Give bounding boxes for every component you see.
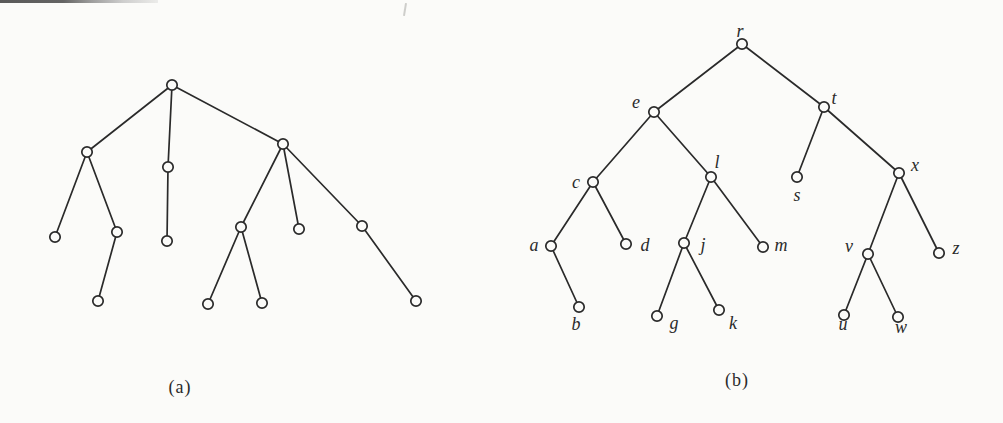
tree-edge-x-z [899, 173, 939, 253]
node-label-e: e [632, 92, 640, 112]
tree-node-e [649, 107, 659, 117]
figure-svg: retclsxadjmvzbgkuw [0, 0, 1003, 423]
caption-b: (b) [725, 370, 749, 391]
tree-node [93, 296, 103, 306]
tree-edge-n1-n3 [168, 85, 172, 167]
node-label-t: t [831, 88, 837, 108]
node-label-w: w [895, 317, 907, 337]
node-label-a: a [530, 235, 539, 255]
tree-node-l [706, 172, 716, 182]
tree-node [50, 232, 60, 242]
tree-node [357, 221, 367, 231]
node-label-u: u [839, 314, 848, 334]
node-label-g: g [670, 313, 679, 333]
tree-b: retclsxadjmvzbgkuw [530, 21, 960, 337]
tree-node-j [679, 238, 689, 248]
tree-node [112, 227, 122, 237]
tree-node [294, 224, 304, 234]
tree-node [163, 162, 173, 172]
node-label-v: v [845, 236, 853, 256]
node-label-c: c [572, 172, 580, 192]
tree-edge-t-x [824, 107, 899, 173]
caption-a: (a) [169, 377, 192, 398]
tree-edge-r-e [654, 44, 742, 112]
tree-edge-c-d [593, 182, 626, 244]
tree-node [278, 139, 288, 149]
node-label-k: k [729, 313, 738, 333]
node-label-z: z [951, 238, 959, 258]
tree-edge-n9-n11 [241, 227, 262, 303]
tree-node-v [863, 249, 873, 259]
tree-node-b [574, 302, 584, 312]
node-label-b: b [572, 314, 581, 334]
tree-node-m [758, 242, 768, 252]
tree-edge-n4-n12 [283, 144, 299, 229]
tree-node-g [652, 311, 662, 321]
tree-edge-l-m [711, 177, 763, 247]
tree-node [236, 222, 246, 232]
tree-node [162, 236, 172, 246]
tree-edge-r-t [742, 44, 824, 107]
tree-node-a [546, 241, 556, 251]
node-label-x: x [910, 155, 919, 175]
tree-edge-v-w [868, 254, 898, 317]
tree-node-d [621, 239, 631, 249]
tree-node-t [819, 102, 829, 112]
tree-edge-n1-n4 [172, 85, 283, 144]
tree-edge-n9-n10 [208, 227, 241, 304]
tree-node [167, 80, 177, 90]
tree-node [411, 296, 421, 306]
tree-edge-j-g [657, 243, 684, 316]
tree-edge-n13-n14 [362, 226, 416, 301]
node-label-l: l [714, 152, 719, 172]
tree-edge-n3-n8 [167, 167, 168, 241]
tree-edge-n1-n2 [87, 85, 172, 152]
tree-node-z [934, 248, 944, 258]
node-label-s: s [793, 185, 800, 205]
tree-edge-n4-n9 [241, 144, 283, 227]
tree-edge-n6-n7 [98, 232, 117, 301]
node-label-j: j [698, 235, 705, 255]
tree-edge-n4-n13 [283, 144, 362, 226]
tree-node [257, 298, 267, 308]
tree-edge-e-c [593, 112, 654, 182]
tree-a [50, 80, 421, 309]
tree-edge-l-j [684, 177, 711, 243]
node-label-r: r [736, 21, 744, 41]
tree-edge-a-b [551, 246, 579, 307]
tree-edge-n2-n6 [87, 152, 117, 232]
node-label-m: m [775, 235, 788, 255]
tree-edge-x-v [868, 173, 899, 254]
figure-page: retclsxadjmvzbgkuw (a) (b) [0, 0, 1003, 423]
tree-edge-e-l [654, 112, 711, 177]
scan-artifact-streak [0, 0, 158, 3]
tree-edge-v-u [844, 254, 868, 315]
tree-node-x [894, 168, 904, 178]
tree-node-c [588, 177, 598, 187]
tree-node-s [792, 172, 802, 182]
tree-edge-n2-n5 [55, 152, 87, 237]
tree-node-k [714, 305, 724, 315]
node-label-d: d [641, 235, 651, 255]
tree-edge-t-s [797, 107, 824, 177]
tree-node [203, 299, 213, 309]
tree-node [82, 147, 92, 157]
